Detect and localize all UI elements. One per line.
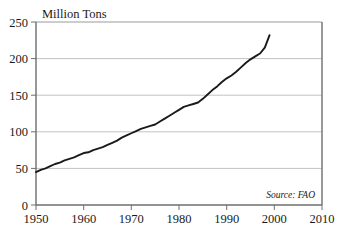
y-tick-label-250: 250	[9, 16, 28, 30]
chart-container: Million Tons 250 200 150 100 50 0 1950 1…	[0, 0, 345, 236]
y-tick-label-50: 50	[16, 162, 29, 176]
y-axis-ticks	[31, 22, 36, 205]
y-tick-label-200: 200	[9, 52, 28, 66]
x-tick-label-2010: 2010	[310, 212, 335, 226]
x-tick-label-1980: 1980	[167, 212, 192, 226]
x-tick-label-2000: 2000	[262, 212, 287, 226]
source-annotation: Source: FAO	[266, 190, 315, 200]
x-tick-label-1950: 1950	[24, 212, 49, 226]
chart-title: Million Tons	[42, 7, 107, 21]
plot-background	[36, 22, 322, 205]
x-axis-ticks	[36, 205, 322, 210]
x-tick-label-1960: 1960	[71, 212, 96, 226]
line-chart: Million Tons 250 200 150 100 50 0 1950 1…	[0, 0, 345, 236]
y-tick-label-150: 150	[9, 89, 28, 103]
x-tick-label-1990: 1990	[214, 212, 239, 226]
x-tick-label-1970: 1970	[119, 212, 144, 226]
y-tick-label-100: 100	[9, 125, 28, 139]
y-tick-label-0: 0	[22, 199, 28, 213]
